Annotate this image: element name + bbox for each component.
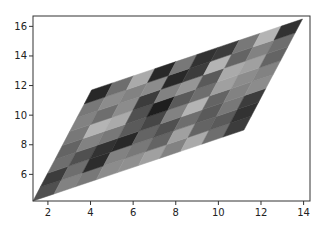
x-axis: 2468101214 (45, 201, 310, 218)
y-tick-label: 8 (21, 139, 27, 150)
x-tick-label: 4 (87, 207, 93, 218)
pcolormesh-chart: 2468101214 6810121416 (0, 0, 325, 228)
x-tick-label: 8 (173, 207, 179, 218)
y-tick-label: 12 (14, 80, 27, 91)
y-tick-label: 14 (14, 50, 27, 61)
y-tick-label: 10 (14, 110, 27, 121)
x-tick-label: 14 (297, 207, 310, 218)
y-tick-label: 6 (21, 169, 27, 180)
y-tick-label: 16 (14, 21, 27, 32)
x-tick-label: 12 (255, 207, 268, 218)
x-tick-label: 6 (130, 207, 136, 218)
skewed-mesh (33, 19, 303, 201)
y-axis: 6810121416 (14, 21, 33, 180)
x-tick-label: 2 (45, 207, 51, 218)
x-tick-label: 10 (212, 207, 225, 218)
